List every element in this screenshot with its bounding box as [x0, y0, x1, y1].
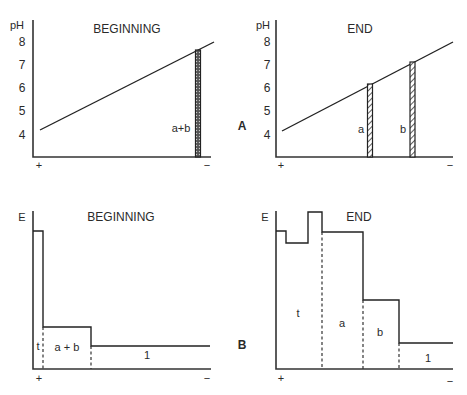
y-tick-4: 4: [19, 128, 26, 142]
band-label-a-plus-b: a+b: [172, 122, 191, 134]
y-tick-5: 5: [19, 104, 26, 118]
zone-label-t: t: [296, 307, 299, 319]
y-axis-label-ph: pH: [10, 19, 24, 31]
axes: [276, 211, 453, 369]
panel-a-beginning: pH 8 7 6 5 4 BEGINNING a+b + −: [10, 19, 214, 171]
panel-b-end: B E END t a b 1 + −: [238, 210, 454, 387]
anode-sign: +: [278, 372, 284, 384]
band-a: [368, 84, 373, 157]
panel-b-beginning: E BEGINNING t a + b 1 + −: [18, 210, 211, 384]
field-strength-profile: [276, 212, 453, 343]
y-tick-7: 7: [19, 58, 26, 72]
cathode-sign: −: [204, 159, 210, 171]
panel-title-end: END: [347, 22, 373, 36]
band-label-b: b: [400, 123, 406, 135]
y-tick-6: 6: [19, 81, 26, 95]
cathode-sign: −: [447, 375, 453, 387]
anode-sign: +: [36, 159, 42, 171]
zone-label-b: b: [377, 326, 383, 338]
panel-letter-a: A: [238, 119, 247, 133]
y-axis-label-e: E: [18, 211, 25, 223]
y-tick-5: 5: [264, 104, 271, 118]
cathode-sign: −: [447, 159, 453, 171]
band-label-a: a: [358, 123, 365, 135]
zone-label-a-plus-b: a + b: [55, 341, 80, 353]
zone-label-1: 1: [144, 349, 150, 361]
y-axis-label-ph: pH: [256, 19, 270, 31]
ph-gradient-line: [40, 42, 214, 130]
zone-label-t: t: [36, 340, 39, 352]
zone-label-1: 1: [425, 352, 431, 364]
panel-title-end: END: [346, 210, 372, 224]
y-tick-8: 8: [264, 35, 271, 49]
panel-a-end: A pH 8 7 6 5 4 END a b + −: [238, 19, 454, 171]
y-tick-8: 8: [19, 35, 26, 49]
field-strength-profile: [33, 231, 210, 346]
panel-title-beginning: BEGINNING: [93, 22, 160, 36]
zone-label-a: a: [339, 317, 346, 329]
panel-letter-b: B: [238, 338, 247, 352]
band-a-plus-b: [196, 50, 201, 157]
anode-sign: +: [36, 372, 42, 384]
cathode-sign: −: [204, 372, 210, 384]
y-tick-7: 7: [264, 58, 271, 72]
y-tick-6: 6: [264, 81, 271, 95]
anode-sign: +: [278, 159, 284, 171]
panel-title-beginning: BEGINNING: [87, 210, 154, 224]
y-axis-label-e: E: [261, 211, 268, 223]
y-tick-4: 4: [264, 128, 271, 142]
band-b: [410, 62, 415, 157]
diagram-canvas: pH 8 7 6 5 4 BEGINNING a+b + − A pH 8 7 …: [0, 0, 467, 395]
